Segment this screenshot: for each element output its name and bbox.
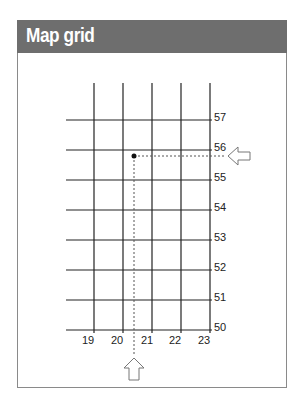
svg-text:52: 52: [214, 261, 226, 273]
svg-text:50: 50: [214, 321, 226, 333]
svg-text:54: 54: [214, 201, 226, 213]
northing-labels: 57 56 55 54 53 52 51 50: [214, 111, 226, 333]
svg-text:19: 19: [82, 334, 94, 346]
easting-labels: 19 20 21 22 23: [82, 334, 210, 346]
svg-text:23: 23: [198, 334, 210, 346]
svg-text:51: 51: [214, 291, 226, 303]
svg-text:56: 56: [214, 141, 226, 153]
svg-text:55: 55: [214, 171, 226, 183]
svg-text:22: 22: [169, 334, 181, 346]
grid-point: [132, 154, 137, 159]
dashed-guides: [134, 156, 226, 356]
svg-text:57: 57: [214, 111, 226, 123]
svg-text:20: 20: [111, 334, 123, 346]
horizontal-grid-lines: [66, 120, 212, 330]
svg-text:21: 21: [141, 334, 153, 346]
arrow-left-icon: [228, 147, 250, 165]
svg-text:53: 53: [214, 231, 226, 243]
arrow-up-icon: [124, 358, 144, 380]
map-grid-diagram: 57 56 55 54 53 52 51 50 19 20 21 22 23: [0, 0, 299, 405]
